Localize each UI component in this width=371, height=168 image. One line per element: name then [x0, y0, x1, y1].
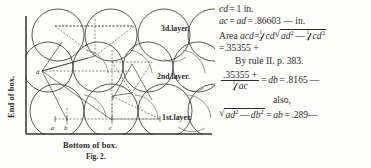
frac-denominator: 2	[259, 37, 262, 42]
equals-sign-ab1: =	[266, 109, 271, 120]
term-acd: acd	[240, 30, 254, 41]
circle-layer1-1	[30, 84, 84, 138]
exponent-2d: 2	[260, 108, 263, 115]
hidden-arc-2	[183, 50, 205, 73]
frac-den-den: 4	[232, 87, 235, 92]
math-line-also: also,	[219, 95, 371, 105]
point-label-c: c	[109, 124, 112, 131]
also-text: also,	[273, 94, 291, 105]
approx-dash-db: —	[310, 75, 320, 85]
value-1: 1	[236, 3, 241, 14]
circle-layer2-1	[23, 42, 73, 92]
frac-denominator-q: 4	[306, 37, 309, 42]
term-ad-sq: ad	[281, 30, 291, 41]
point-label-d: d	[36, 68, 40, 75]
hidden-arc-1	[130, 50, 152, 73]
plus-sign: +	[253, 42, 258, 53]
minus-sign: —	[295, 30, 305, 41]
math-line-cd: cd=1 in.	[219, 4, 371, 14]
leader-line-layer2	[183, 86, 204, 91]
radical-sign-2: √	[219, 108, 225, 118]
value-8165: .8165	[286, 75, 308, 85]
circle-layer1-4	[188, 84, 218, 138]
edge-d-up	[42, 42, 62, 71]
circle-layer3-2	[85, 9, 137, 61]
math-line-ac-ad: ac=ad=.86603 — in.	[219, 16, 371, 26]
rule-reference-text: By rule II. p. 383.	[235, 55, 303, 66]
term-ac-den: ac	[239, 80, 248, 91]
term-db: db	[268, 75, 278, 85]
unit-in-2: in.	[295, 15, 305, 26]
equals-sign-ab2: =	[284, 109, 289, 120]
term-cd-factor: cd	[266, 30, 275, 41]
hidden-arc-3	[86, 50, 108, 73]
math-line-db: .35355 + 14ac = db = .8165 —	[219, 70, 371, 91]
layer-label-1st: 1st.layer.	[162, 113, 192, 122]
circle-layer3-1	[32, 9, 84, 61]
term-ab: ab	[273, 109, 283, 120]
construction-triangle-bottom	[112, 96, 160, 119]
fraction-one-quarter-den: 14	[232, 82, 238, 91]
edge-d-to-c	[42, 71, 112, 120]
exponent-2: 2	[291, 29, 294, 36]
figure-2-diagram: End of box.	[0, 0, 218, 168]
equals-sign-db1: =	[261, 75, 266, 85]
x-axis-label: Bottom of box.	[63, 141, 117, 150]
circle-packing-svg: End of box.	[0, 0, 218, 168]
value-289: .289	[291, 109, 308, 120]
approx-dash: —	[283, 15, 293, 26]
equals-sign-1: =	[230, 15, 235, 26]
term-ad: ad	[236, 15, 246, 26]
area-label: Area	[219, 30, 238, 41]
construction-triangle-mid	[112, 62, 152, 93]
exponent-2b: 2	[322, 29, 325, 36]
radical-body: ad2—14cd2	[280, 29, 326, 41]
value-86603: .86603	[255, 15, 281, 26]
point-label-a: a	[51, 124, 55, 131]
fraction-one-quarter: 14	[306, 32, 312, 41]
layer-label-2nd: 2nd.layer.	[157, 72, 190, 81]
radical-expression-2: √ad2—db2	[219, 108, 265, 120]
term-cd: cd	[219, 3, 228, 14]
layer-label-3d: 3d.layer.	[161, 24, 189, 33]
math-line-rule-reference: By rule II. p. 383.	[219, 56, 371, 66]
equals-sign-db2: =	[279, 75, 284, 85]
fraction-one-half: 12	[259, 32, 265, 41]
equals-sign-2: =	[248, 15, 253, 26]
point-label-b: b	[64, 124, 68, 131]
construction-triangle-top	[55, 26, 134, 56]
radical-body-2: ad2—db2	[224, 108, 265, 120]
leader-line-layer1	[178, 127, 205, 132]
exponent-2c: 2	[235, 108, 238, 115]
edge-d-to-b	[42, 71, 67, 120]
edge-apex-down-2	[132, 64, 152, 100]
term-ac: ac	[219, 15, 228, 26]
circle-layer3-3	[138, 9, 190, 61]
math-line-area: Area acd=12cd√ad2—14cd2	[219, 29, 371, 41]
figure-caption: Fig. 2.	[86, 152, 106, 161]
radical-expression-1: √ad2—14cd2	[275, 29, 327, 41]
term-db-sq: db	[251, 109, 261, 120]
radical-sign: √	[275, 29, 281, 39]
math-derivation-column: cd=1 in. ac=ad=.86603 — in. Area acd=12c…	[219, 4, 371, 168]
equals-sign: =	[230, 3, 235, 14]
unit-in: in.	[244, 3, 254, 14]
minus-sign-2: —	[240, 109, 250, 120]
value-35355: .35355	[224, 42, 250, 53]
term-cd-sq: cd	[313, 30, 322, 41]
display-fraction: .35355 + 14ac	[221, 70, 259, 91]
approx-dash-ab: —	[308, 109, 318, 120]
scanned-page: End of box.	[0, 0, 371, 168]
y-axis-label: End of box.	[7, 76, 16, 118]
circle-layer2-2	[73, 42, 123, 92]
fraction-denominator: 14ac	[221, 80, 259, 91]
term-ad-sq-2: ad	[225, 109, 235, 120]
math-line-ab: √ad2—db2=ab=.289—	[219, 108, 371, 120]
fraction-numerator: .35355 +	[221, 70, 259, 80]
math-line-result-area: =.35355 +	[219, 43, 371, 53]
